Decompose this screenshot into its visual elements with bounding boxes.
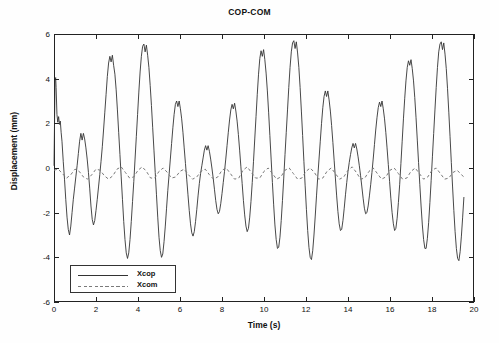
x-tick-label: 14 xyxy=(336,305,360,314)
y-axis-tick-mark xyxy=(469,213,474,214)
y-tick-label: 6 xyxy=(28,30,50,39)
x-axis-tick-mark xyxy=(54,297,55,302)
x-tick-label: 6 xyxy=(168,305,192,314)
x-axis-tick-labels: 02468101214161820 xyxy=(54,305,474,319)
series-xcop xyxy=(54,41,464,261)
x-axis-tick-mark xyxy=(138,297,139,302)
x-axis-tick-mark xyxy=(390,34,391,39)
data-traces xyxy=(54,34,474,302)
y-axis-tick-mark xyxy=(54,168,59,169)
plot-area xyxy=(54,34,474,302)
x-tick-label: 4 xyxy=(126,305,150,314)
x-axis-tick-mark xyxy=(348,34,349,39)
x-tick-label: 20 xyxy=(462,305,486,314)
x-axis-label: Time (s) xyxy=(154,320,374,330)
x-axis-tick-mark xyxy=(222,34,223,39)
x-tick-label: 8 xyxy=(210,305,234,314)
y-axis-tick-mark xyxy=(54,213,59,214)
y-axis-tick-mark xyxy=(469,257,474,258)
legend-item-xcom[interactable]: Xcom xyxy=(71,281,177,292)
x-tick-label: 12 xyxy=(294,305,318,314)
x-axis-tick-mark xyxy=(432,34,433,39)
x-tick-label: 2 xyxy=(84,305,108,314)
y-axis-tick-mark xyxy=(469,123,474,124)
y-axis-tick-mark xyxy=(469,302,474,303)
y-axis-tick-mark xyxy=(54,257,59,258)
y-axis-tick-mark xyxy=(54,302,59,303)
x-tick-label: 18 xyxy=(420,305,444,314)
legend-label: Xcop xyxy=(137,269,155,278)
x-axis-tick-mark xyxy=(390,297,391,302)
y-tick-label: -4 xyxy=(28,253,50,262)
figure-canvas: COP-COM -6-4-20246 02468101214161820 Dis… xyxy=(0,0,499,343)
x-axis-tick-mark xyxy=(180,297,181,302)
x-axis-tick-mark xyxy=(474,34,475,39)
y-axis-tick-mark xyxy=(469,168,474,169)
y-axis-tick-mark xyxy=(54,79,59,80)
x-axis-tick-mark xyxy=(138,34,139,39)
series-xcom xyxy=(54,167,464,179)
y-tick-label: 0 xyxy=(28,164,50,173)
y-tick-label: -2 xyxy=(28,208,50,217)
x-axis-tick-mark xyxy=(474,297,475,302)
x-axis-tick-mark xyxy=(264,34,265,39)
y-tick-label: 4 xyxy=(28,74,50,83)
legend-line-swatch xyxy=(78,275,128,276)
y-axis-label: Displacement (mm) xyxy=(9,56,19,246)
page-title: COP-COM xyxy=(0,7,499,17)
x-axis-tick-mark xyxy=(264,297,265,302)
y-axis-tick-mark xyxy=(54,123,59,124)
x-axis-tick-mark xyxy=(348,297,349,302)
x-axis-tick-mark xyxy=(306,34,307,39)
y-axis-tick-mark xyxy=(469,79,474,80)
x-axis-tick-mark xyxy=(432,297,433,302)
legend-line-swatch xyxy=(78,286,128,287)
legend-box: XcopXcom xyxy=(70,265,176,293)
x-tick-label: 16 xyxy=(378,305,402,314)
y-axis-tick-labels: -6-4-20246 xyxy=(26,34,50,302)
x-axis-tick-mark xyxy=(306,297,307,302)
y-tick-label: 2 xyxy=(28,119,50,128)
legend-item-xcop[interactable]: Xcop xyxy=(71,270,177,281)
x-axis-tick-mark xyxy=(54,34,55,39)
x-axis-tick-mark xyxy=(180,34,181,39)
legend-label: Xcom xyxy=(137,280,157,289)
x-axis-tick-mark xyxy=(96,34,97,39)
x-tick-label: 10 xyxy=(252,305,276,314)
x-axis-tick-mark xyxy=(96,297,97,302)
x-tick-label: 0 xyxy=(42,305,66,314)
x-axis-tick-mark xyxy=(222,297,223,302)
